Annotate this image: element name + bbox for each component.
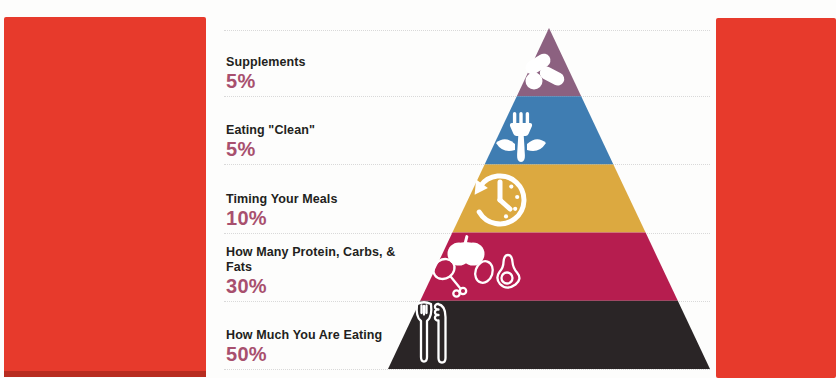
scanned-page: Supplements 5% Eating "Clean" 5% Timing … [0, 0, 836, 378]
left-red-panel [4, 17, 206, 377]
pyramid-level-meal-timing [452, 164, 645, 232]
pyramid-level-eating-clean [485, 96, 614, 164]
right-red-panel [716, 18, 836, 378]
left-red-panel-bottom-edge [4, 371, 206, 377]
nutrition-pyramid [388, 28, 710, 369]
